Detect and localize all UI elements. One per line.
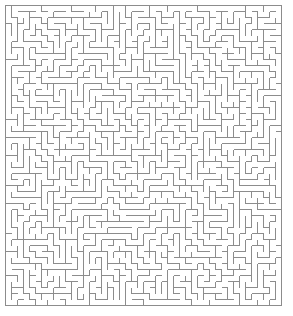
maze-canvas xyxy=(0,0,293,316)
maze-drawing xyxy=(0,0,293,316)
